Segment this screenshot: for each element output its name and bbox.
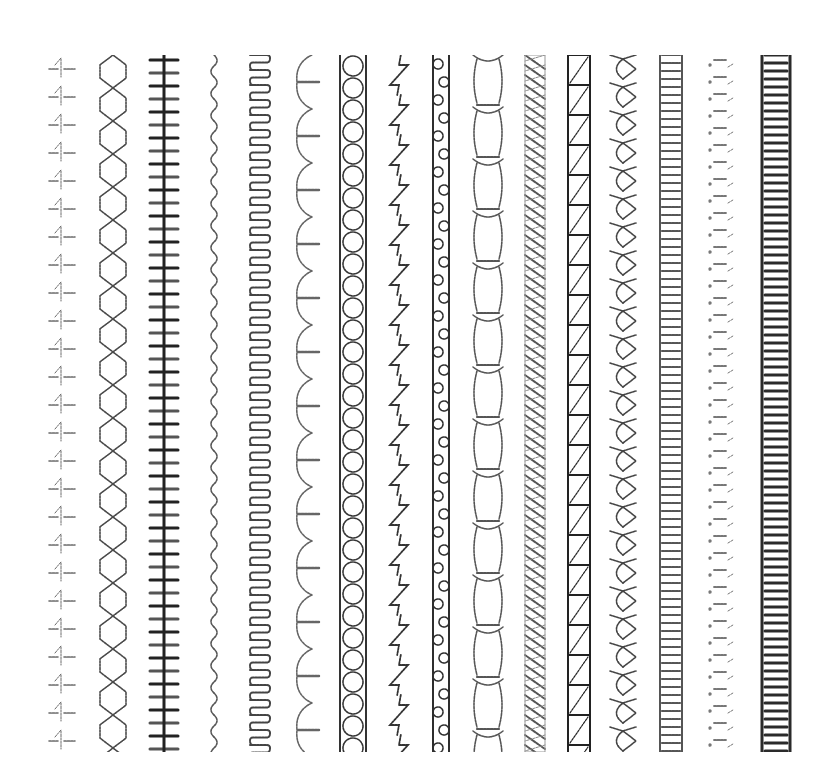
blanket-curve-stitch [291, 55, 323, 752]
diagonal-weave-stitch [521, 55, 549, 752]
arrow-dash-stitch [43, 55, 81, 752]
stitch-pattern-sheet [0, 0, 836, 782]
hexagon-chain-stitch [96, 55, 130, 752]
meander-stitch [246, 55, 274, 752]
dotted-dash-stitch [704, 55, 738, 752]
dense-ladder-stitch [656, 55, 686, 752]
heavy-ladder-stitch [758, 55, 794, 752]
rope-chain-stitch [429, 55, 453, 752]
bar-spine-stitch [146, 55, 182, 752]
cross-scallop-stitch [606, 55, 640, 752]
zigzag-stitch [386, 55, 412, 752]
scallop-circle-stitch [469, 55, 507, 752]
box-diagonal-stitch [564, 55, 594, 752]
ladder-circle-stitch [336, 55, 370, 752]
serpentine-stitch [204, 55, 224, 752]
